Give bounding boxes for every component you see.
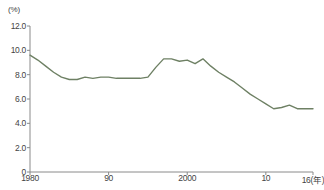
source-note xyxy=(4,184,124,190)
y-axis-tick-label: 2.0 xyxy=(15,143,26,153)
x-axis-tick-label: 1980 xyxy=(21,173,39,183)
x-axis-tick-label: 2000 xyxy=(178,173,196,183)
y-axis-tick-label: 4.0 xyxy=(15,118,26,128)
y-axis-tick-label: 8.0 xyxy=(15,70,26,80)
x-axis-tick-label: 16(年) xyxy=(302,173,324,185)
axes xyxy=(27,26,313,175)
y-axis-tick-label: 10.0 xyxy=(11,45,26,55)
data-line-series xyxy=(30,55,313,109)
y-axis-unit-label: (%) xyxy=(8,5,20,14)
y-axis-tick-label: 6.0 xyxy=(15,94,26,104)
x-axis-tick-label: 90 xyxy=(104,173,113,183)
y-axis-tick-label: 12.0 xyxy=(11,21,26,31)
x-axis-tick-label: 10 xyxy=(261,173,270,183)
